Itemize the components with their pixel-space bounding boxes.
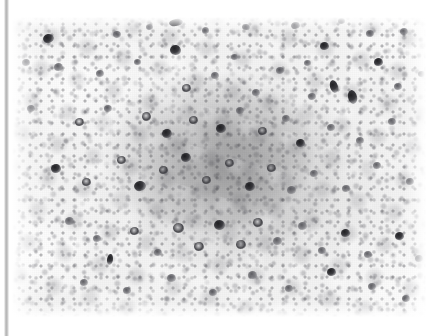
positive-cell (310, 170, 318, 177)
positive-cell (253, 218, 263, 227)
positive-cell (368, 283, 376, 290)
positive-cell (273, 237, 282, 245)
positive-cell (93, 235, 101, 242)
positive-cell (248, 271, 257, 279)
positive-cell (388, 118, 396, 125)
positive-cell (395, 232, 404, 240)
positive-cell (327, 124, 335, 131)
positive-cell (159, 166, 168, 174)
positive-cell (342, 185, 350, 192)
positive-cell (225, 159, 234, 167)
positive-cell (373, 162, 381, 169)
positive-cell (182, 84, 191, 92)
positive-cell (209, 289, 217, 296)
positive-cell (356, 137, 364, 144)
positive-cell (267, 164, 276, 172)
positive-cell (285, 285, 293, 292)
positive-cell (308, 93, 316, 100)
positive-cell (202, 27, 209, 34)
positive-cell (418, 71, 425, 77)
positive-cell (282, 115, 290, 122)
positive-cell (202, 176, 211, 184)
positive-cell (400, 28, 408, 35)
positive-cell (189, 116, 198, 124)
positive-cell (406, 178, 414, 185)
positive-cell (366, 30, 374, 37)
micrograph-figure (0, 0, 438, 336)
positive-cell (296, 139, 305, 147)
positive-cell (231, 54, 238, 60)
positive-cell (287, 186, 296, 194)
positive-cell (194, 242, 204, 251)
positive-cell (65, 217, 74, 225)
scan-edge-bar (4, 0, 9, 336)
positive-cell (181, 153, 191, 162)
positive-cell (276, 67, 284, 74)
positive-cell (415, 255, 423, 262)
positive-cell (173, 223, 184, 233)
positive-cell (236, 240, 246, 249)
positive-cell (394, 83, 402, 90)
positive-cell (252, 89, 260, 96)
film-grain (12, 17, 426, 317)
positive-cell (167, 274, 176, 282)
positive-cell (304, 60, 311, 66)
positive-cell (318, 247, 326, 254)
positive-cell (142, 112, 151, 121)
positive-cell (236, 107, 244, 114)
positive-cell (327, 268, 336, 276)
positive-cell (245, 182, 255, 191)
positive-cell (123, 287, 131, 294)
positive-cell (258, 127, 267, 135)
positive-cell (51, 164, 61, 173)
positive-cell (298, 222, 307, 230)
positive-cell (338, 18, 345, 24)
positive-cell (216, 124, 226, 133)
positive-cell (96, 70, 104, 77)
micrograph-plate (12, 17, 426, 317)
positive-cell (146, 24, 153, 30)
positive-cell (154, 249, 162, 256)
positive-cell (82, 178, 91, 186)
positive-cell (27, 105, 35, 112)
positive-cell (162, 129, 172, 138)
positive-cell (290, 21, 300, 29)
positive-cell (117, 156, 126, 164)
positive-cell (374, 58, 383, 66)
positive-cell (402, 295, 410, 302)
positive-cell (364, 251, 372, 258)
positive-cell (75, 118, 84, 126)
positive-cell (22, 59, 30, 66)
positive-cell (54, 63, 63, 71)
positive-cell (134, 59, 141, 65)
positive-cell (341, 229, 350, 237)
positive-cell (130, 227, 139, 235)
positive-cell (320, 42, 329, 50)
positive-cell (104, 105, 112, 112)
positive-cell (214, 220, 225, 230)
positive-cell (211, 72, 219, 79)
positive-cell (80, 279, 88, 286)
